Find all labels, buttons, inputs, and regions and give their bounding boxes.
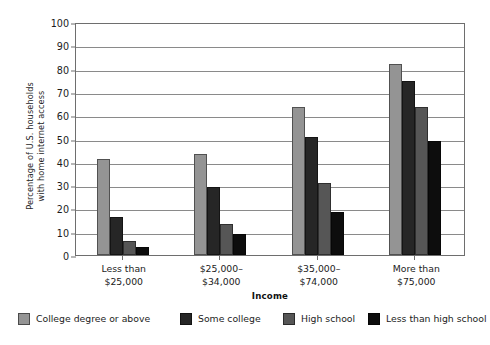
legend-swatch-icon: [180, 313, 192, 325]
bar: [220, 224, 233, 255]
y-axis-title: Percentage of U.S. households with home …: [25, 36, 47, 256]
legend-swatch-icon: [368, 313, 380, 325]
bar: [233, 234, 246, 255]
bar: [97, 159, 110, 255]
bar: [415, 107, 428, 255]
bar: [428, 141, 441, 255]
bar: [292, 107, 305, 255]
x-axis-title: Income: [75, 291, 465, 301]
legend-item[interactable]: College degree or above: [18, 312, 150, 326]
legend-label: Less than high school: [386, 313, 487, 325]
x-axis-tick-mark: [317, 256, 318, 260]
legend-swatch-icon: [18, 313, 30, 325]
legend-label: Some college: [198, 313, 261, 325]
bar-chart: Percentage of U.S. households with home …: [0, 0, 490, 345]
legend-label: College degree or above: [36, 313, 150, 325]
x-axis-labels: Less than $25,000$25,000– $34,000$35,000…: [75, 263, 465, 293]
bar: [194, 154, 207, 255]
bar: [136, 247, 149, 255]
x-axis-ticks: [75, 256, 465, 261]
plot-area: 0102030405060708090100: [75, 23, 465, 256]
bar: [110, 217, 123, 255]
bar: [402, 81, 415, 255]
chart-legend: College degree or aboveSome collegeHigh …: [18, 312, 478, 328]
bar: [207, 187, 220, 255]
bar: [305, 137, 318, 255]
legend-swatch-icon: [283, 313, 295, 325]
bar: [123, 241, 136, 255]
bar-group: [97, 24, 149, 255]
x-axis-category-label: More than $75,000: [358, 263, 476, 288]
legend-item[interactable]: Less than high school: [368, 312, 487, 326]
legend-label: High school: [301, 313, 355, 325]
bar-group: [389, 24, 441, 255]
x-axis-tick-mark: [122, 256, 123, 260]
bar: [389, 64, 402, 255]
bar: [331, 212, 344, 255]
legend-item[interactable]: High school: [283, 312, 355, 326]
x-axis-tick-mark: [219, 256, 220, 260]
bar: [318, 183, 331, 255]
legend-item[interactable]: Some college: [180, 312, 261, 326]
bar-group: [194, 24, 246, 255]
bars-layer: [76, 24, 464, 255]
x-axis-tick-mark: [414, 256, 415, 260]
bar-group: [292, 24, 344, 255]
